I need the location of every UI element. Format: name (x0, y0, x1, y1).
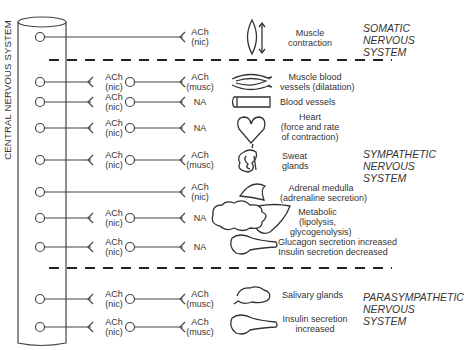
skeletal-muscle-icon (248, 20, 266, 54)
cns-label: CENTRAL NERVOUS SYSTEM (2, 0, 13, 190)
post-nt-label-row9: ACh(musc) (183, 289, 217, 309)
pre-nt-label-row7: ACh(nic) (97, 208, 131, 228)
post-nt-label-row6: ACh(nic) (183, 182, 217, 202)
effect-label-row1: Musclecontraction (280, 28, 340, 48)
post-nt-label-row3: NA (183, 97, 217, 107)
pre-nt-label-row10: ACh(nic) (97, 317, 131, 337)
effect-label-row4: Heart(force and rateof contraction) (280, 112, 340, 142)
post-nt-label-row4: NA (183, 123, 217, 133)
effect-label-row5: Sweatglands (282, 151, 318, 171)
pancreas-icon-2 (231, 315, 277, 334)
pre-nt-label-row3: ACh(nic) (97, 92, 131, 112)
post-nt-label-row1: ACh(nic) (183, 27, 217, 47)
post-nt-label-row8: NA (183, 242, 217, 252)
pre-nt-label-row9: ACh(nic) (97, 289, 131, 309)
salivary-gland-icon (234, 287, 270, 304)
effect-label-row7: Metabolic(lipolysis,glycogenolysis) (290, 207, 345, 237)
effect-label-row3: Blood vessels (280, 97, 342, 107)
pre-nt-label-row2: ACh(nic) (97, 72, 131, 92)
pre-nt-label-row8: ACh(nic) (97, 237, 131, 257)
sweat-gland-icon (239, 144, 257, 172)
sympathetic-system-label: SYMPATHETICNERVOUSSYSTEM (363, 148, 436, 184)
effect-label-row2: Muscle bloodvessels (dilatation) (280, 72, 350, 92)
parasympathetic-system-label: PARASYMPATHETICNERVOUSSYSTEM (363, 291, 464, 327)
somatic-system-label: SOMATICNERVOUSSYSTEM (363, 22, 415, 58)
post-nt-label-row10: ACh(musc) (183, 317, 217, 337)
post-nt-label-row2: ACh(musc) (183, 72, 217, 92)
muscle-blood-vessel-icon (232, 75, 272, 90)
pre-nt-label-row5: ACh(nic) (97, 150, 131, 170)
adrenal-medulla-icon (240, 184, 265, 200)
effect-label-row6: Adrenal medulla(adrenaline secretion) (280, 183, 362, 203)
post-nt-label-row7: NA (183, 213, 217, 223)
pre-nt-label-row4: ACh(nic) (97, 118, 131, 138)
post-nt-label-row5: ACh(musc) (183, 150, 217, 170)
effect-label-row8: Glucagon secretion increasedInsulin secr… (278, 237, 388, 257)
effect-label-row9: Salivary glands (282, 290, 352, 300)
blood-vessel-icon (233, 97, 271, 107)
effect-label-row10: Insulin secretionincreased (280, 314, 350, 334)
liver-fat-icon (212, 201, 290, 233)
pancreas-icon (231, 235, 277, 254)
heart-icon (238, 117, 265, 143)
